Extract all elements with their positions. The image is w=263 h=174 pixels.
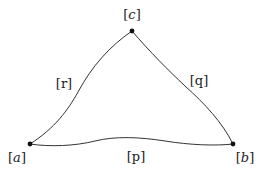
edge-p [30, 138, 233, 146]
edge-label-r: [r] [56, 76, 72, 91]
vertex-label-c: [c] [123, 7, 140, 22]
edge-r [30, 31, 132, 144]
edge-label-p: [p] [127, 149, 145, 164]
edge-q [132, 31, 233, 144]
triangle-diagram: [c] [a] [b] [p] [q] [r] [0, 0, 263, 174]
vertex-label-b: [b] [236, 150, 254, 165]
vertex-a [28, 142, 33, 147]
vertex-b [231, 142, 236, 147]
vertex-c [130, 29, 135, 34]
vertex-label-a: [a] [8, 150, 26, 165]
edge-label-q: [q] [190, 73, 208, 88]
